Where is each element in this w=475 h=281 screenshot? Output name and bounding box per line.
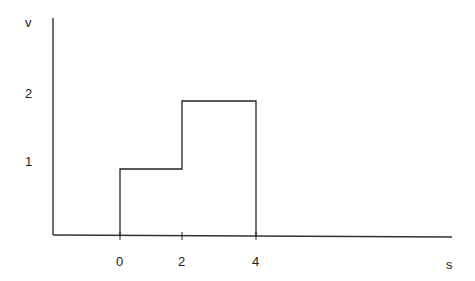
x-tick-label-0: 0 <box>116 254 123 269</box>
step-function-line <box>120 101 256 236</box>
y-tick-label-1: 1 <box>25 154 32 169</box>
x-tick-label-2: 2 <box>178 254 185 269</box>
y-tick-label-2: 2 <box>25 86 32 101</box>
step-diagram <box>0 0 475 281</box>
x-tick-label-4: 4 <box>252 254 259 269</box>
x-axis-label: s <box>446 257 453 272</box>
x-axis <box>53 235 452 237</box>
y-axis-label: v <box>25 15 32 30</box>
